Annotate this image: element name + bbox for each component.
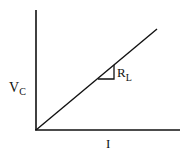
vi-characteristic-diagram: VC RL I	[0, 0, 187, 153]
load-line	[36, 29, 157, 130]
slope-label: RL	[117, 65, 132, 83]
y-axis-label: VC	[9, 80, 26, 97]
x-axis-label: I	[106, 136, 110, 151]
diagram-svg: VC RL I	[0, 0, 187, 153]
